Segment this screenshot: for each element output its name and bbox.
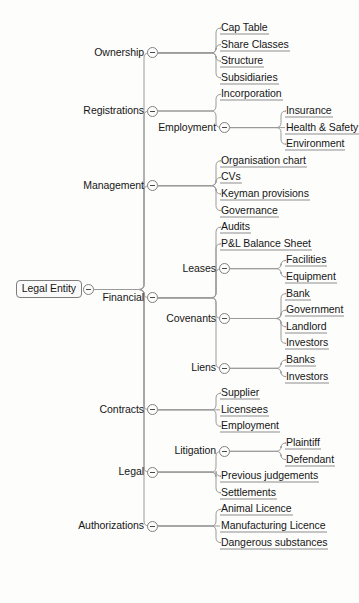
leaf-node-facilities[interactable]: Facilities <box>285 254 327 267</box>
leaf-node-keyman-provisions[interactable]: Keyman provisions <box>220 188 310 201</box>
leaf-node-organisation-chart[interactable]: Organisation chart <box>220 154 307 167</box>
node-label: Financial <box>101 292 145 304</box>
leaf-node-environment[interactable]: Environment <box>285 138 345 151</box>
branch-node-employment[interactable]: Employment <box>0 122 217 134</box>
collapse-toggle-litigation[interactable] <box>219 446 230 457</box>
leaf-node-government[interactable]: Government <box>285 304 344 317</box>
node-label: Settlements <box>220 486 277 499</box>
node-label: Government <box>285 304 344 317</box>
branch-node-management[interactable]: Management <box>0 180 145 192</box>
branch-node-legal[interactable]: Legal <box>0 466 145 478</box>
collapse-toggle-legal[interactable] <box>147 467 158 478</box>
branch-node-registrations[interactable]: Registrations <box>0 105 145 117</box>
node-label: Litigation <box>173 445 217 457</box>
leaf-node-audits[interactable]: Audits <box>220 221 251 234</box>
node-label: Ownership <box>93 47 145 59</box>
collapse-toggle-authorizations[interactable] <box>147 521 158 532</box>
node-label: Employment <box>220 420 280 433</box>
leaf-node-supplier[interactable]: Supplier <box>220 387 260 400</box>
node-label: Health & Safety <box>285 121 359 134</box>
leaf-node-landlord[interactable]: Landlord <box>285 320 327 333</box>
node-label: Landlord <box>285 320 327 333</box>
node-label: Registrations <box>82 105 145 117</box>
collapse-toggle-financial[interactable] <box>147 292 158 303</box>
collapse-toggle-liens[interactable] <box>219 363 230 374</box>
node-label: Banks <box>285 354 316 367</box>
collapse-toggle-leases[interactable] <box>219 263 230 274</box>
leaf-node-previous-judgements[interactable]: Previous judgements <box>220 470 319 483</box>
leaf-node-share-classes[interactable]: Share Classes <box>220 38 290 51</box>
node-label: Share Classes <box>220 38 290 51</box>
leaf-node-bank[interactable]: Bank <box>285 287 311 300</box>
node-label: Audits <box>220 221 251 234</box>
leaf-node-dangerous-substances[interactable]: Dangerous substances <box>220 536 328 549</box>
branch-node-contracts[interactable]: Contracts <box>0 404 145 416</box>
leaf-node-structure[interactable]: Structure <box>220 55 264 68</box>
leaf-node-investors[interactable]: Investors <box>285 337 329 350</box>
node-label: Incorporation <box>220 88 283 101</box>
node-label: Cap Table <box>220 22 269 35</box>
leaf-node-governance[interactable]: Governance <box>220 204 279 217</box>
node-label: Leases <box>181 263 217 275</box>
node-label: Investors <box>285 337 329 350</box>
leaf-node-equipment[interactable]: Equipment <box>285 271 337 284</box>
leaf-node-licensees[interactable]: Licensees <box>220 403 269 416</box>
leaf-node-cap-table[interactable]: Cap Table <box>220 22 269 35</box>
node-label: P&L Balance Sheet <box>220 237 312 250</box>
node-label: Equipment <box>285 271 337 284</box>
collapse-toggle-ownership[interactable] <box>147 47 158 58</box>
node-label: Dangerous substances <box>220 536 328 549</box>
leaf-node-plaintiff[interactable]: Plaintiff <box>285 437 321 450</box>
collapse-toggle-registrations[interactable] <box>147 106 158 117</box>
leaf-node-subsidiaries[interactable]: Subsidiaries <box>220 71 279 84</box>
collapse-toggle-employment[interactable] <box>219 122 230 133</box>
collapse-toggle-covenants[interactable] <box>219 313 230 324</box>
node-label: Plaintiff <box>285 437 321 450</box>
node-label: Manufacturing Licence <box>220 520 327 533</box>
leaf-node-settlements[interactable]: Settlements <box>220 486 277 499</box>
leaf-node-cvs[interactable]: CVs <box>220 171 242 184</box>
node-label: Insurance <box>285 105 333 118</box>
branch-node-leases[interactable]: Leases <box>0 263 217 275</box>
node-label: Authorizations <box>77 520 145 532</box>
branch-node-financial[interactable]: Financial <box>0 292 145 304</box>
leaf-node-banks[interactable]: Banks <box>285 354 316 367</box>
node-label: Employment <box>157 122 217 134</box>
node-label: Environment <box>285 138 345 151</box>
node-label: Investors <box>285 370 329 383</box>
node-label: Management <box>82 180 145 192</box>
node-label: Defendant <box>285 453 335 466</box>
leaf-node-defendant[interactable]: Defendant <box>285 453 335 466</box>
leaf-node-manufacturing-licence[interactable]: Manufacturing Licence <box>220 520 327 533</box>
node-label: Structure <box>220 55 264 68</box>
node-label: Licensees <box>220 403 269 416</box>
node-label: Liens <box>190 362 217 374</box>
collapse-toggle-contracts[interactable] <box>147 404 158 415</box>
node-label: Keyman provisions <box>220 188 310 201</box>
node-label: Supplier <box>220 387 260 400</box>
node-label: Facilities <box>285 254 327 267</box>
leaf-node-incorporation[interactable]: Incorporation <box>220 88 283 101</box>
leaf-node-insurance[interactable]: Insurance <box>285 105 333 118</box>
node-label: Legal <box>118 466 145 478</box>
node-label: Animal Licence <box>220 503 293 516</box>
node-label: Bank <box>285 287 311 300</box>
branch-node-litigation[interactable]: Litigation <box>0 445 217 457</box>
leaf-node-investors[interactable]: Investors <box>285 370 329 383</box>
leaf-node-health-and-safety[interactable]: Health & Safety <box>285 121 359 134</box>
collapse-toggle-management[interactable] <box>147 180 158 191</box>
branch-node-ownership[interactable]: Ownership <box>0 47 145 59</box>
node-label: Governance <box>220 204 279 217</box>
node-label: Contracts <box>99 404 145 416</box>
leaf-node-employment[interactable]: Employment <box>220 420 280 433</box>
leaf-node-animal-licence[interactable]: Animal Licence <box>220 503 293 516</box>
leaf-node-pandl-balance-sheet[interactable]: P&L Balance Sheet <box>220 237 312 250</box>
node-label: Organisation chart <box>220 154 307 167</box>
node-label: Subsidiaries <box>220 71 279 84</box>
branch-node-liens[interactable]: Liens <box>0 362 217 374</box>
node-label: CVs <box>220 171 242 184</box>
branch-node-authorizations[interactable]: Authorizations <box>0 520 145 532</box>
node-label: Previous judgements <box>220 470 319 483</box>
branch-node-covenants[interactable]: Covenants <box>0 313 217 325</box>
